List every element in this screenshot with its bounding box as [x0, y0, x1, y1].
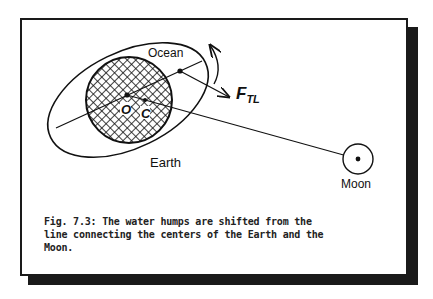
figure-caption: Fig. 7.3: The water humps are shifted fr… — [44, 215, 394, 254]
moon-center-dot — [356, 157, 361, 162]
caption-line-2: line connecting the centers of the Earth… — [44, 228, 394, 241]
point-o-label: O — [121, 102, 131, 117]
caption-line-1: Fig. 7.3: The water humps are shifted fr… — [44, 215, 394, 228]
center-o-dot — [124, 92, 129, 97]
tide-diagram: O C Ocean Earth Moon FTL — [0, 0, 433, 299]
earth-circle — [86, 57, 172, 143]
caption-line-3: Moon. — [44, 241, 394, 254]
ocean-label: Ocean — [148, 46, 183, 60]
tidal-force-label: FTL — [236, 84, 260, 105]
center-c-dot — [143, 98, 147, 102]
point-c-label: C — [141, 106, 151, 121]
rotation-arrow — [210, 45, 218, 84]
moon-label: Moon — [341, 177, 371, 191]
earth-label: Earth — [150, 155, 181, 170]
